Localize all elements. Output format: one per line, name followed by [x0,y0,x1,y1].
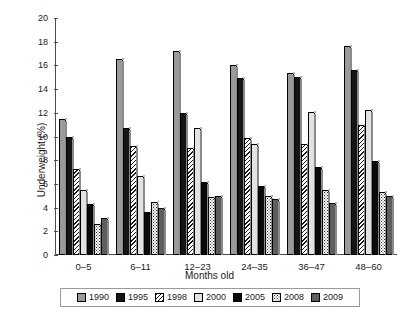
bar-1998-6–11[interactable] [130,146,137,255]
bar-1990-48–60[interactable] [344,46,351,255]
bar-1995-36–47[interactable] [294,77,301,255]
legend-label: 2008 [284,293,304,302]
bar-2008-24–35[interactable] [265,196,272,255]
y-tick [54,255,58,256]
chart-legend: 1990199519982000200520082009 [60,288,360,307]
bar-1990-24–35[interactable] [230,65,237,255]
bar-2000-12–23[interactable] [194,128,201,255]
legend-item-2008[interactable]: 2008 [272,293,304,302]
bar-1995-12–23[interactable] [180,113,187,255]
bar-group [344,18,393,255]
bar-2009-0–5[interactable] [101,218,108,255]
legend-swatch-icon-2005 [233,293,242,302]
bar-2000-48–60[interactable] [365,110,372,255]
legend-swatch-icon-2008 [272,293,281,302]
bar-2009-36–47[interactable] [329,203,336,255]
bar-2008-48–60[interactable] [379,192,386,255]
bar-1995-24–35[interactable] [237,78,244,255]
bar-1990-12–23[interactable] [173,51,180,255]
bar-2009-24–35[interactable] [272,199,279,255]
legend-item-1995[interactable]: 1995 [116,293,148,302]
chart-container: Underweight (%) 02468101214161820 0–56–1… [0,0,419,319]
legend-item-2005[interactable]: 2005 [233,293,265,302]
y-tick-label: 14 [38,85,48,94]
bar-1998-24–35[interactable] [244,138,251,255]
bar-group [116,18,165,255]
bar-group [287,18,336,255]
bar-2000-6–11[interactable] [137,176,144,255]
y-tick-label: 20 [38,14,48,23]
legend-label: 1998 [167,293,187,302]
bar-2008-0–5[interactable] [94,224,101,255]
bar-2005-6–11[interactable] [144,212,151,255]
bar-2008-6–11[interactable] [151,202,158,255]
y-tick-label: 16 [38,61,48,70]
legend-swatch-icon-1990 [77,293,86,302]
legend-label: 2000 [206,293,226,302]
bar-2000-24–35[interactable] [251,144,258,255]
bar-2009-6–11[interactable] [158,208,165,255]
legend-swatch-icon-2009 [311,293,320,302]
bar-2008-36–47[interactable] [322,190,329,255]
bar-2008-12–23[interactable] [208,197,215,255]
bar-1998-36–47[interactable] [301,144,308,255]
legend-label: 2005 [245,293,265,302]
y-tick-label: 10 [38,133,48,142]
bar-2005-48–60[interactable] [372,161,379,255]
plot-area: 02468101214161820 0–56–1112–2324–3536–47… [55,18,397,255]
y-tick-label: 8 [43,156,48,165]
bar-1990-36–47[interactable] [287,73,294,255]
legend-item-1998[interactable]: 1998 [155,293,187,302]
y-tick-label: 4 [43,204,48,213]
legend-label: 1995 [128,293,148,302]
y-tick-label: 6 [43,180,48,189]
legend-label: 1990 [89,293,109,302]
bar-2005-24–35[interactable] [258,186,265,255]
legend-swatch-icon-1998 [155,293,164,302]
bar-2009-48–60[interactable] [386,196,393,255]
legend-item-2000[interactable]: 2000 [194,293,226,302]
bar-1998-12–23[interactable] [187,148,194,255]
legend-label: 2009 [323,293,343,302]
bar-2000-0–5[interactable] [80,190,87,255]
bar-1998-48–60[interactable] [358,125,365,255]
bar-2009-12–23[interactable] [215,196,222,255]
bar-1998-0–5[interactable] [73,169,80,256]
legend-swatch-icon-2000 [194,293,203,302]
bar-2005-12–23[interactable] [201,182,208,255]
y-tick-label: 0 [43,251,48,260]
y-tick-label: 18 [38,38,48,47]
legend-swatch-icon-1995 [116,293,125,302]
bar-1995-6–11[interactable] [123,128,130,255]
bar-1995-48–60[interactable] [351,70,358,255]
y-tick-label: 12 [38,109,48,118]
legend-item-1990[interactable]: 1990 [77,293,109,302]
bar-group [230,18,279,255]
legend-item-2009[interactable]: 2009 [311,293,343,302]
bar-group [173,18,222,255]
bar-1995-0–5[interactable] [66,137,73,256]
bar-groups [55,18,397,255]
x-axis-title: Months old [0,270,419,281]
bar-2000-36–47[interactable] [308,112,315,255]
y-tick-label: 2 [43,227,48,236]
bar-1990-6–11[interactable] [116,59,123,255]
bar-1990-0–5[interactable] [59,119,66,255]
bar-2005-36–47[interactable] [315,167,322,255]
bar-group [59,18,108,255]
bar-2005-0–5[interactable] [87,204,94,255]
